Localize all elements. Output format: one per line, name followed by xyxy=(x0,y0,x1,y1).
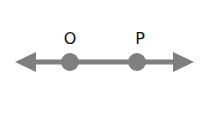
right-arrowhead-icon xyxy=(173,52,194,72)
label-o: O xyxy=(64,29,77,48)
point-p xyxy=(128,53,146,71)
point-o xyxy=(61,53,79,71)
left-arrowhead-icon xyxy=(15,52,36,72)
label-p: P xyxy=(135,29,145,48)
line-diagram: O P xyxy=(0,0,209,139)
